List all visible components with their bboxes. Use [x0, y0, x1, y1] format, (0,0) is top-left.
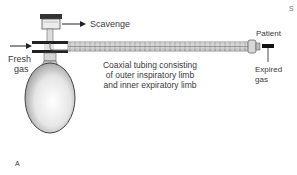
expired-gas-label-line1: Expired — [255, 65, 282, 74]
reservoir-bag — [25, 61, 75, 133]
scavenge-label: Scavenge — [90, 20, 130, 29]
corner-mark: S — [289, 4, 294, 13]
expired-gas-label-line2: gas — [255, 75, 268, 84]
patient-connector — [248, 40, 274, 62]
patient-label: Patient — [256, 29, 281, 38]
tubing-description-line3: and inner expiratory limb — [100, 80, 200, 90]
scavenge-valve — [40, 14, 62, 43]
tubing-description-line1: Coaxial tubing consisting — [100, 60, 200, 70]
fresh-gas-label-line1: Fresh — [8, 55, 31, 64]
fresh-gas-label-line2: gas — [14, 65, 29, 74]
tubing-description: Coaxial tubing consisting of outer inspi… — [100, 60, 200, 90]
panel-label: A — [15, 159, 20, 168]
t-piece-connector — [32, 41, 68, 61]
coaxial-tubing — [68, 42, 248, 51]
fresh-gas-arrow — [10, 43, 32, 49]
scavenge-arrow — [62, 21, 86, 27]
tubing-description-line2: of outer inspiratory limb — [100, 70, 200, 80]
